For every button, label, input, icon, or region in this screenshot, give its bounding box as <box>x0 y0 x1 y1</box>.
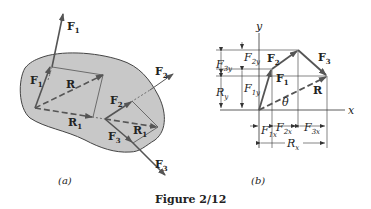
y-axis-label: y <box>255 20 263 33</box>
label-ry: Ry <box>215 86 229 101</box>
label-theta: θ <box>282 96 289 109</box>
label-f1-outer: F1 <box>67 20 80 35</box>
figure-caption: Figure 2/12 <box>155 193 226 206</box>
figure-canvas: F1 F1 R R1 F2 F2 R1 F3 F3 (a) y x F2 F3 … <box>0 0 371 209</box>
label-f2: F2 <box>267 52 280 67</box>
label-f2-outer: F2 <box>155 65 168 80</box>
label-f1: F1 <box>276 72 289 87</box>
label-r: R <box>313 84 323 97</box>
label-f2x: F2x <box>275 121 292 136</box>
panel-b-label: (b) <box>251 175 265 186</box>
label-f3: F3 <box>318 51 331 66</box>
label-f3y: F3y <box>215 58 233 73</box>
x-axis-label: x <box>348 104 355 117</box>
panel-a: F1 F1 R R1 F2 F2 R1 F3 F3 (a) <box>20 14 173 186</box>
label-f2y: F2y <box>243 51 261 66</box>
panel-a-label: (a) <box>58 175 72 186</box>
label-f3x: F3x <box>303 121 320 136</box>
label-f1y: F1y <box>243 82 261 97</box>
label-f3-outer: F3 <box>155 158 168 173</box>
label-r: R <box>66 78 76 91</box>
panel-b: y x F2 F3 F1 R θ F2y F3y Ry F1y <box>215 20 355 186</box>
